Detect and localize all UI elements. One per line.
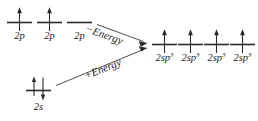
orbital-2sp3-1: 2sp3 xyxy=(152,29,177,63)
orbital-2sp3-3: 2sp3 xyxy=(204,29,229,63)
spin-up-arrowhead xyxy=(188,29,193,35)
spin-up-arrowhead xyxy=(162,29,167,35)
orbital-label: 2sp3 xyxy=(155,51,174,63)
energy-decrease-label: −Energy xyxy=(84,22,125,47)
orbital-2p-1: 2p xyxy=(7,7,32,41)
orbital-hybridization-diagram: 2p 2p 2p xyxy=(0,0,258,121)
spin-up-arrowhead xyxy=(240,29,245,35)
orbital-label: 2sp3 xyxy=(207,51,226,63)
diagram-canvas: 2p 2p 2p xyxy=(0,0,258,121)
spin-up-arrowhead xyxy=(47,7,52,13)
orbital-2s-1: 2s xyxy=(26,76,51,112)
orbital-2sp3-4: 2sp3 xyxy=(230,29,255,63)
orbital-label: 2p xyxy=(14,30,25,41)
p-orbital-group: 2p 2p 2p xyxy=(7,7,92,41)
s-orbital-group: 2s xyxy=(26,76,51,112)
orbital-label: 2p xyxy=(74,30,85,41)
orbital-2sp3-2: 2sp3 xyxy=(178,29,203,63)
spin-up-arrowhead xyxy=(32,76,36,82)
orbital-label: 2s xyxy=(34,101,43,112)
transition-energy-increase: +Energy xyxy=(56,46,148,85)
orbital-label: 2sp3 xyxy=(181,51,200,63)
spin-up-arrowhead xyxy=(214,29,219,35)
energy-decrease-arrowhead xyxy=(139,41,148,47)
sp3-orbital-group: 2sp3 2sp3 2sp3 2sp3 xyxy=(152,29,255,63)
spin-up-arrowhead xyxy=(17,7,22,13)
transition-energy-decrease: −Energy xyxy=(84,22,147,47)
orbital-label: 2sp3 xyxy=(233,51,252,63)
orbital-label: 2p xyxy=(44,30,55,41)
transition-arrow-group: −Energy +Energy xyxy=(56,22,148,86)
spin-down-arrowhead xyxy=(41,95,45,101)
orbital-2p-2: 2p xyxy=(37,7,62,41)
energy-increase-label: +Energy xyxy=(82,55,123,81)
